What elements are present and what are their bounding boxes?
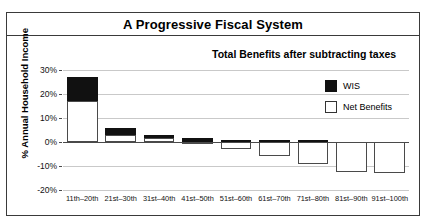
x-axis-tick-label: 21st–30th xyxy=(104,194,136,203)
bar-group xyxy=(259,70,290,190)
y-axis-tick-mark xyxy=(59,94,62,95)
y-axis-tick-label: 10% xyxy=(40,113,57,123)
bar-group xyxy=(182,70,213,190)
chart-frame: Total Benefits after subtracting taxes %… xyxy=(6,36,420,216)
bar-segment-wis xyxy=(221,140,252,142)
x-axis-tick-label: 41st–50th xyxy=(181,194,213,203)
y-axis-tick-mark xyxy=(59,166,62,167)
bar-segment-wis xyxy=(105,128,136,135)
y-axis-tick-mark xyxy=(59,190,62,191)
y-axis-tick-label: 0% xyxy=(45,137,57,147)
bar-segment-net-benefits xyxy=(221,142,252,149)
bar-group xyxy=(105,70,136,190)
bar-segment-wis xyxy=(298,140,329,142)
bar-segment-wis xyxy=(182,138,213,142)
bar-segment-wis xyxy=(259,140,290,142)
y-axis-title: % Annual Household Income xyxy=(19,29,30,159)
x-axis-tick-label: 91st–100th xyxy=(371,194,408,203)
bar-segment-net-benefits xyxy=(298,142,329,164)
y-axis-tick-label: -10% xyxy=(37,161,57,171)
x-axis-tick-label: 71st–80th xyxy=(297,194,329,203)
chart-subtitle: Total Benefits after subtracting taxes xyxy=(212,48,396,60)
y-axis-tick-mark xyxy=(59,142,62,143)
bar-series-layer xyxy=(63,70,409,190)
page-title: A Progressive Fiscal System xyxy=(123,17,303,32)
x-axis-tick-label: 81st–90th xyxy=(335,194,367,203)
x-axis-tick-label: 11th–20th xyxy=(66,194,98,203)
bar-segment-net-benefits xyxy=(259,142,290,156)
bar-group xyxy=(374,70,405,190)
y-axis-tick-label: 20% xyxy=(40,89,57,99)
x-axis-tick-label: 51st–60th xyxy=(220,194,252,203)
chart-title-box: A Progressive Fiscal System xyxy=(6,12,420,36)
bar-segment-wis xyxy=(144,135,175,139)
bar-segment-net-benefits xyxy=(105,135,136,142)
y-axis-tick-label: 30% xyxy=(40,65,57,75)
plot-area: 30%20%10%0%-10%-20% xyxy=(63,70,409,190)
y-axis-tick-label: -20% xyxy=(37,185,57,195)
bar-segment-net-benefits xyxy=(182,142,213,144)
bar-group xyxy=(144,70,175,190)
bar-group xyxy=(298,70,329,190)
x-axis-tick-label: 61st–70th xyxy=(258,194,290,203)
bar-segment-net-benefits xyxy=(374,142,405,173)
y-axis-tick-mark xyxy=(59,118,62,119)
x-axis-tick-label: 31st–40th xyxy=(143,194,175,203)
y-axis-tick-mark xyxy=(59,70,62,71)
chart-page: A Progressive Fiscal System Total Benefi… xyxy=(0,0,426,222)
bar-group xyxy=(336,70,367,190)
bar-segment-wis xyxy=(67,77,98,101)
x-axis-labels: 11th–20th21st–30th31st–40th41st–50th51st… xyxy=(63,194,409,208)
bar-segment-net-benefits xyxy=(336,142,367,172)
bar-segment-net-benefits xyxy=(144,138,175,142)
bar-segment-net-benefits xyxy=(67,101,98,142)
gridline xyxy=(63,190,409,191)
bar-group xyxy=(221,70,252,190)
bar-group xyxy=(67,70,98,190)
